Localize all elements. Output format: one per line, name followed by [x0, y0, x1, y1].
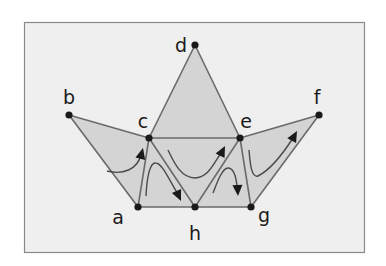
vertex-f — [315, 111, 322, 118]
diagram-canvas: abcdefgh — [0, 0, 386, 266]
vertex-label-g: g — [258, 204, 270, 226]
vertex-label-h: h — [189, 222, 201, 244]
vertex-g — [247, 203, 254, 210]
vertex-h — [191, 203, 198, 210]
vertex-d — [191, 41, 198, 48]
vertex-a — [134, 203, 141, 210]
vertex-b — [65, 111, 72, 118]
vertex-label-e: e — [240, 110, 252, 132]
vertex-label-c: c — [138, 110, 148, 132]
triangulation-diagram: abcdefgh — [0, 0, 386, 266]
vertex-e — [236, 134, 243, 141]
vertex-c — [145, 134, 152, 141]
vertex-label-b: b — [63, 86, 75, 108]
vertex-label-d: d — [175, 34, 187, 56]
vertex-label-a: a — [112, 206, 124, 228]
